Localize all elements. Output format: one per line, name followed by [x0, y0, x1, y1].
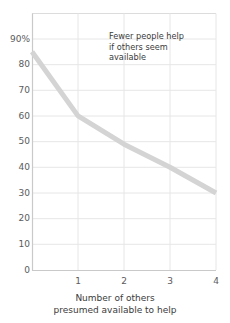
y-tick-label: 0: [2, 266, 30, 275]
x-axis-label-line-1: Number of others: [0, 292, 230, 304]
y-tick-40: 40: [0, 163, 30, 172]
chart-figure: 90% 80 70 60 50 40 30 20 10 0 1 2 3 4 Fe…: [0, 0, 230, 323]
y-tick-label: 90%: [2, 35, 30, 44]
y-tick-label: 20: [2, 214, 30, 223]
chart-annotation: Fewer people help if others seem availab…: [109, 31, 209, 63]
y-tick-label: 70: [2, 86, 30, 95]
y-tick-20: 20: [0, 214, 30, 223]
annotation-line-1: Fewer people help: [109, 31, 209, 42]
y-tick-30: 30: [0, 189, 30, 198]
y-tick-label: 60: [2, 112, 30, 121]
y-tick-90: 90%: [0, 35, 30, 44]
y-tick-80: 80: [0, 60, 30, 69]
y-tick-label: 80: [2, 60, 30, 69]
x-axis-label-line-2: presumed available to help: [0, 304, 230, 316]
y-tick-label: 40: [2, 163, 30, 172]
y-tick-70: 70: [0, 86, 30, 95]
y-tick-label: 10: [2, 240, 30, 249]
y-tick-60: 60: [0, 112, 30, 121]
x-tick-1: 1: [68, 277, 88, 286]
x-tick-4: 4: [206, 277, 226, 286]
y-tick-50: 50: [0, 137, 30, 146]
x-axis-label: Number of others presumed available to h…: [0, 292, 230, 316]
y-tick-0: 0: [0, 266, 30, 275]
x-tick-2: 2: [114, 277, 134, 286]
x-tick-3: 3: [160, 277, 180, 286]
y-tick-label: 30: [2, 189, 30, 198]
y-tick-10: 10: [0, 240, 30, 249]
y-tick-label: 50: [2, 137, 30, 146]
annotation-line-3: available: [109, 52, 209, 63]
annotation-line-2: if others seem: [109, 42, 209, 53]
